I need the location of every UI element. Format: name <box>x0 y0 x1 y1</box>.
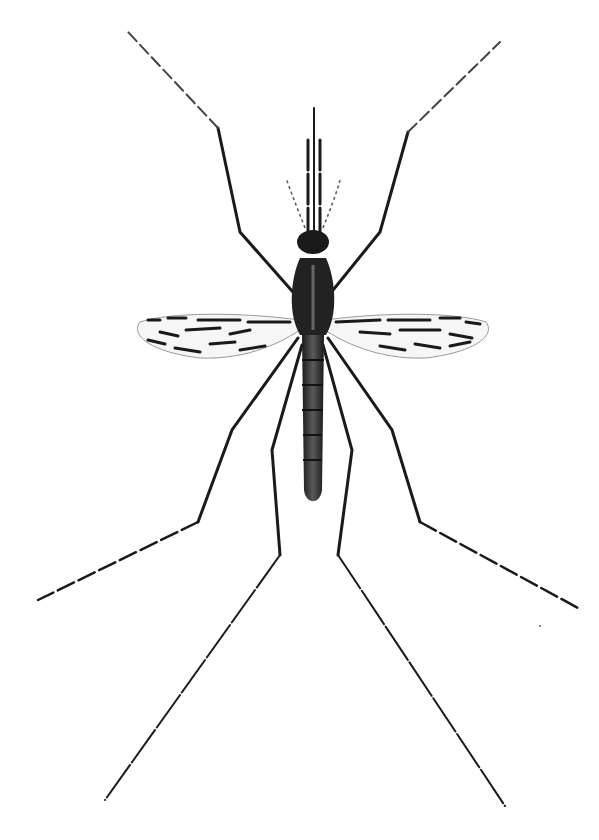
left-wing <box>138 314 301 358</box>
head <box>297 230 329 254</box>
proboscis <box>308 108 320 232</box>
illustration-canvas <box>0 0 599 840</box>
mosquito-illustration <box>0 0 599 840</box>
right-wing <box>325 314 489 358</box>
